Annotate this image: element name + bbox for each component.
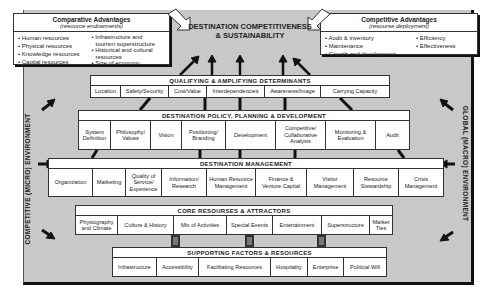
supporting-factors-block: SUPPORTING FACTORS & RESOURCES Infrastru… xyxy=(112,247,387,277)
policy-planning-block: DESTINATION POLICY, PLANNING & DEVELOPME… xyxy=(78,110,410,150)
policy-item: System Definition xyxy=(79,121,111,149)
management-item: Organization xyxy=(49,169,93,196)
qualifying-item: Awareness/Image xyxy=(265,86,321,97)
supporting-item: Infrastructure xyxy=(113,258,157,276)
pillar-connector xyxy=(171,235,180,247)
qualifying-item: Location xyxy=(91,86,121,97)
policy-item: Monitoring & Evaluation xyxy=(326,121,376,149)
core-item: Superstructure xyxy=(322,216,370,234)
qualifying-item: Safety/Security xyxy=(121,86,169,97)
core-item: Physiography and Climate xyxy=(76,216,118,234)
destination-competitiveness-title: DESTINATION COMPETITIVENESS & SUSTAINABI… xyxy=(170,22,330,40)
management-item: Crisis Management xyxy=(399,169,443,196)
core-item: Entertainment xyxy=(273,216,322,234)
supporting-item: Political Will xyxy=(344,258,386,276)
management-item: Resource Stewardship xyxy=(354,169,399,196)
management-item: Marketing xyxy=(93,169,126,196)
supporting-title: SUPPORTING FACTORS & RESOURCES xyxy=(113,248,386,258)
policy-item: Competitive/ Collaborative Analysis xyxy=(276,121,326,149)
pillar-connector xyxy=(245,235,254,247)
policy-item: Positioning/ Branding xyxy=(182,121,226,149)
supporting-item: Accessibility xyxy=(157,258,199,276)
supporting-item: Hospitality xyxy=(271,258,308,276)
core-item: Special Events xyxy=(227,216,273,234)
management-item: Information/ Research xyxy=(162,169,207,196)
policy-item: Audit xyxy=(376,121,409,149)
policy-item: Vision xyxy=(151,121,182,149)
management-title: DESTINATION MANAGEMENT xyxy=(49,159,443,169)
management-item: Visitor Management xyxy=(307,169,354,196)
qualifying-determinants-block: QUALIFYING & AMPLIFYING DETERMINANTS Loc… xyxy=(90,75,390,98)
qualifying-item: Cost/Value xyxy=(169,86,207,97)
supporting-item: Enterprise xyxy=(308,258,344,276)
core-title: CORE RESOURSES & ATTRACTORS xyxy=(76,206,392,216)
policy-title: DESTINATION POLICY, PLANNING & DEVELOPME… xyxy=(79,111,409,121)
supporting-item: Facilitating Resources xyxy=(199,258,271,276)
policy-item: Philosophy/ Values xyxy=(111,121,151,149)
core-item: Mix of Activities xyxy=(174,216,227,234)
core-item: Market Ties xyxy=(370,216,392,234)
qualifying-title: QUALIFYING & AMPLIFYING DETERMINANTS xyxy=(91,76,389,86)
management-item: Human Resource Management xyxy=(207,169,256,196)
qualifying-item: Interdependencies xyxy=(207,86,265,97)
core-item: Culture & History xyxy=(118,216,174,234)
pillar-connector xyxy=(317,235,326,247)
qualifying-item: Carrying Capacity xyxy=(321,86,389,97)
management-item: Finance & Venture Capital xyxy=(256,169,307,196)
destination-management-block: DESTINATION MANAGEMENT Organization Mark… xyxy=(48,158,444,197)
management-item: Quality of Service/ Experience xyxy=(126,169,162,196)
policy-item: Development xyxy=(226,121,276,149)
core-resources-block: CORE RESOURSES & ATTRACTORS Physiography… xyxy=(75,205,393,235)
